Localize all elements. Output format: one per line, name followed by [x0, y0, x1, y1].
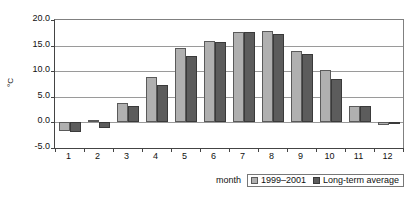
x-tick-label-4: 4: [144, 151, 168, 162]
legend-item-series-0: 1999–2001: [251, 175, 306, 185]
x-tick-label-5: 5: [173, 151, 197, 162]
bar-series-0-month-5: [175, 48, 186, 122]
bar-series-1-month-2: [99, 122, 110, 127]
x-tick-label-10: 10: [318, 151, 342, 162]
bar-series-1-month-7: [244, 32, 255, 122]
bar-series-0-month-10: [320, 70, 331, 123]
bar-series-1-month-12: [389, 122, 400, 124]
bar-series-1-month-8: [273, 34, 284, 123]
y-tickmark: [51, 71, 55, 72]
x-tick-label-3: 3: [115, 151, 139, 162]
x-tick-label-2: 2: [86, 151, 110, 162]
y-tick-label: 20.0: [14, 14, 50, 23]
y-tick-label: 5.0: [14, 91, 50, 100]
y-tick-label: 0.0: [14, 116, 50, 125]
x-tick-label-6: 6: [202, 151, 226, 162]
y-tick-label: 10.0: [14, 65, 50, 74]
gridline: [55, 71, 403, 72]
legend-row: month 1999–2001 Long-term average: [216, 172, 404, 188]
bar-series-1-month-1: [70, 122, 81, 132]
x-axis-tick-labels: 123456789101112: [54, 151, 404, 165]
y-tickmark: [51, 20, 55, 21]
bar-series-1-month-10: [331, 79, 342, 122]
bar-series-0-month-4: [146, 77, 157, 122]
y-tickmark: [51, 46, 55, 47]
bar-series-0-month-9: [291, 51, 302, 123]
y-tickmark: [51, 122, 55, 123]
bar-series-0-month-12: [378, 122, 389, 125]
x-tick-label-8: 8: [260, 151, 284, 162]
x-tick-label-9: 9: [289, 151, 313, 162]
legend-label-series-1: Long-term average: [323, 175, 399, 185]
legend-label-series-0: 1999–2001: [261, 175, 306, 185]
legend-swatch-icon-series-1: [313, 177, 320, 184]
y-axis-tick-labels: 20.015.010.05.00.0-5.0: [14, 0, 50, 201]
bar-series-1-month-6: [215, 42, 226, 122]
bar-series-0-month-1: [59, 122, 70, 131]
y-tick-label: 15.0: [14, 40, 50, 49]
gridline: [55, 46, 403, 47]
y-tickmark: [51, 97, 55, 98]
bar-series-1-month-5: [186, 56, 197, 123]
bar-series-0-month-11: [349, 106, 360, 123]
bar-series-1-month-11: [360, 106, 371, 122]
x-axis-title: month: [216, 175, 241, 185]
bar-series-1-month-3: [128, 106, 139, 123]
bar-series-0-month-2: [88, 120, 99, 123]
y-tick-label: -5.0: [14, 142, 50, 151]
gridline: [55, 97, 403, 98]
x-tick-label-7: 7: [231, 151, 255, 162]
bar-series-0-month-8: [262, 31, 273, 122]
temperature-bar-chart: °C 20.015.010.05.00.0-5.0 12345678910111…: [0, 0, 415, 201]
legend-item-series-1: Long-term average: [313, 175, 399, 185]
plot-area: [54, 19, 404, 149]
bar-series-1-month-9: [302, 54, 313, 123]
legend-swatch-icon-series-0: [251, 177, 258, 184]
x-tick-label-1: 1: [57, 151, 81, 162]
bar-series-0-month-6: [204, 41, 215, 122]
legend-box: 1999–2001 Long-term average: [247, 174, 404, 187]
bar-series-0-month-3: [117, 103, 128, 122]
bar-series-1-month-4: [157, 85, 168, 123]
bar-series-0-month-7: [233, 32, 244, 122]
x-tick-label-12: 12: [376, 151, 400, 162]
x-tick-label-11: 11: [347, 151, 371, 162]
